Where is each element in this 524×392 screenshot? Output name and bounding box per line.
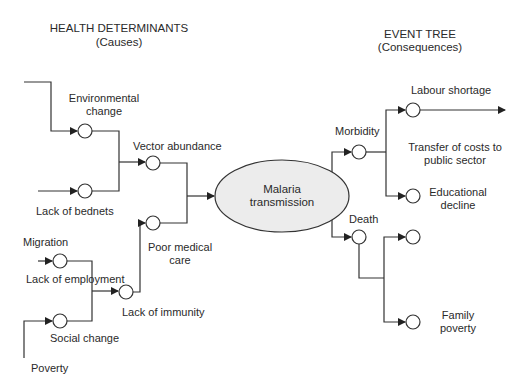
causes-title: HEALTH DETERMINANTS	[50, 22, 188, 35]
center-line1: Malaria	[263, 183, 301, 196]
label-lack-of-employment: Lack of employment	[26, 273, 124, 286]
label-educational-decline-1: Educational	[429, 186, 487, 199]
node-lack-of-bednets	[78, 184, 92, 198]
label-poor-medical-care-1: Poor medical	[148, 241, 212, 254]
label-poverty: Poverty	[31, 362, 68, 375]
malaria-diagram: HEALTH DETERMINANTS (Causes) EVENT TREE …	[0, 0, 524, 392]
node-death-branch	[406, 230, 420, 244]
label-environmental-change-1: Environmental	[69, 92, 139, 105]
causes-subtitle: (Causes)	[96, 36, 143, 49]
label-environmental-change-2: change	[86, 105, 122, 118]
label-death: Death	[349, 213, 378, 226]
node-lack-of-immunity	[119, 285, 133, 299]
label-vector-abundance: Vector abundance	[133, 140, 222, 153]
node-poor-medical-care	[146, 216, 160, 230]
node-death	[352, 230, 366, 244]
node-family-poverty	[406, 315, 420, 329]
label-migration: Migration	[23, 236, 68, 249]
label-family-poverty-2: poverty	[440, 322, 476, 335]
consequences-title: EVENT TREE	[384, 28, 456, 41]
node-morbidity	[352, 145, 366, 159]
label-lack-of-immunity: Lack of immunity	[122, 306, 205, 319]
consequences-subtitle: (Consequences)	[378, 41, 462, 54]
node-labour-shortage	[406, 103, 420, 117]
label-morbidity: Morbidity	[335, 125, 380, 138]
node-educational-decline	[406, 189, 420, 203]
node-social-change	[53, 314, 67, 328]
node-vector-abundance	[146, 156, 160, 170]
label-transfer-of-costs-2: public sector	[424, 154, 486, 167]
node-environmental-change	[78, 124, 92, 138]
label-poor-medical-care-2: care	[169, 254, 190, 267]
label-lack-of-bednets: Lack of bednets	[36, 205, 114, 218]
label-educational-decline-2: decline	[441, 199, 476, 212]
label-transfer-of-costs-1: Transfer of costs to	[408, 141, 502, 154]
label-labour-shortage: Labour shortage	[411, 84, 491, 97]
node-migration	[53, 254, 67, 268]
label-family-poverty-1: Family	[442, 309, 474, 322]
center-line2: transmission	[250, 196, 315, 209]
label-social-change: Social change	[50, 332, 119, 345]
